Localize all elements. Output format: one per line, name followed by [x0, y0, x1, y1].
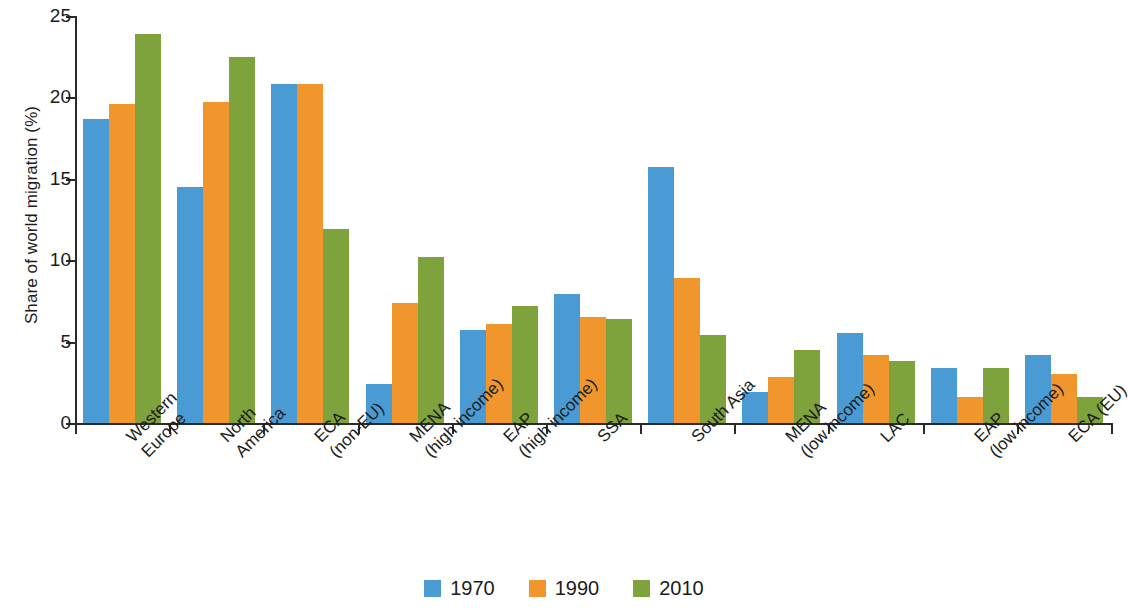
bar-group: [83, 16, 161, 423]
bar[interactable]: [648, 167, 674, 423]
bar-group: [648, 16, 726, 423]
legend-label: 1970: [450, 578, 495, 598]
bar[interactable]: [229, 57, 255, 423]
legend-label: 2010: [659, 578, 704, 598]
legend-label: 1990: [555, 578, 600, 598]
x-tick: [923, 423, 925, 434]
legend-swatch-icon: [424, 580, 441, 597]
y-tick-label: 20: [31, 87, 71, 106]
y-tick-label: 25: [31, 6, 71, 25]
bar-group: [837, 16, 915, 423]
legend-swatch-icon: [529, 580, 546, 597]
legend-item[interactable]: 1970: [424, 578, 495, 598]
bar-group: [177, 16, 255, 423]
bar[interactable]: [109, 104, 135, 423]
bar[interactable]: [177, 187, 203, 423]
bar[interactable]: [271, 84, 297, 423]
y-tick-label: 10: [31, 250, 71, 269]
bar-group: [1025, 16, 1103, 423]
chart-figure: Share of world migration (%) 0510152025 …: [0, 0, 1128, 610]
bar-group: [366, 16, 444, 423]
bar-group: [931, 16, 1009, 423]
bar-group: [271, 16, 349, 423]
bar[interactable]: [203, 102, 229, 423]
x-tick: [75, 423, 77, 434]
bar[interactable]: [606, 319, 632, 423]
bar[interactable]: [674, 278, 700, 423]
legend-item[interactable]: 1990: [529, 578, 600, 598]
chart-legend: 197019902010: [0, 578, 1128, 598]
y-tick-label: 0: [31, 413, 71, 432]
bar[interactable]: [957, 397, 983, 423]
bar[interactable]: [931, 368, 957, 423]
bar-group: [554, 16, 632, 423]
bar-group: [460, 16, 538, 423]
bar[interactable]: [392, 303, 418, 423]
y-axis-title: Share of world migration (%): [22, 65, 42, 365]
x-tick: [734, 423, 736, 434]
bar[interactable]: [83, 119, 109, 423]
legend-item[interactable]: 2010: [633, 578, 704, 598]
bar[interactable]: [135, 34, 161, 423]
y-axis-line: [75, 16, 77, 424]
x-tick: [1111, 423, 1113, 434]
plot-area: 0510152025: [75, 16, 1111, 423]
bar[interactable]: [323, 229, 349, 423]
legend-swatch-icon: [633, 580, 650, 597]
y-tick-label: 15: [31, 169, 71, 188]
bar[interactable]: [768, 377, 794, 423]
x-tick: [640, 423, 642, 434]
y-tick-label: 5: [31, 332, 71, 351]
bar[interactable]: [297, 84, 323, 423]
bar-group: [742, 16, 820, 423]
